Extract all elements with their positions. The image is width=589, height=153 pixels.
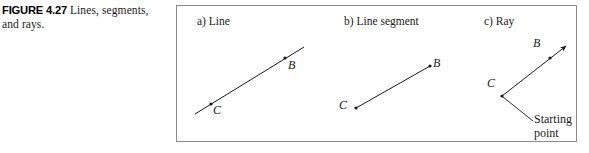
figure-number-tag: FIGURE 4.27 <box>2 4 67 16</box>
caption-text-line-1: Lines, segments, <box>70 4 149 16</box>
caption-line-1: FIGURE 4.27Lines, segments, <box>2 4 170 18</box>
starting-point-annotation: Starting point <box>534 113 572 140</box>
point-label-b-panel-b: B <box>433 56 440 71</box>
starting-point-annotation-line-1: Starting <box>534 113 572 127</box>
figure-caption: FIGURE 4.27Lines, segments, and rays. <box>2 4 170 31</box>
point-label-c-panel-b: C <box>339 98 347 113</box>
figure-page: FIGURE 4.27Lines, segments, and rays. a)… <box>0 0 589 153</box>
point-label-b-panel-a: B <box>288 58 295 73</box>
point-label-c-panel-c: C <box>487 76 495 91</box>
panel-title-ray: c) Ray <box>484 15 514 27</box>
panel-title-line-segment: b) Line segment <box>344 15 419 27</box>
panel-title-line: a) Line <box>197 15 230 27</box>
starting-point-annotation-line-2: point <box>534 127 572 141</box>
point-label-b-panel-c: B <box>533 36 540 51</box>
caption-line-2: and rays. <box>2 18 170 32</box>
point-label-c-panel-a: C <box>213 103 221 118</box>
